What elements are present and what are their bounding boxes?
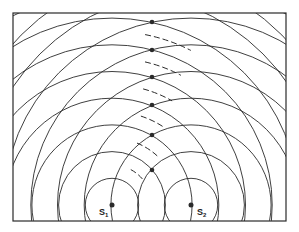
nodal-line-4 xyxy=(143,89,172,101)
source-label-s2: S2 xyxy=(197,207,207,218)
wavefront-s2-9 xyxy=(0,0,299,231)
wavefront-s1-6 xyxy=(0,45,272,231)
antinode-dot-6 xyxy=(150,168,155,173)
wavefront-s1-4 xyxy=(5,98,219,231)
nodal-line-1 xyxy=(131,170,143,180)
source-dot-s1 xyxy=(110,203,115,208)
antinode-points xyxy=(150,20,155,173)
antinode-dot-4 xyxy=(150,103,155,108)
nodal-line-2 xyxy=(137,143,158,157)
source-dot-s2 xyxy=(189,203,194,208)
wavefront-s2-8 xyxy=(0,0,299,231)
wavefront-circles xyxy=(0,0,299,231)
nodal-line-5 xyxy=(145,62,181,75)
wavefront-s1-10 xyxy=(0,0,299,231)
antinode-dot-2 xyxy=(150,48,155,53)
wavefront-s2-6 xyxy=(31,45,299,231)
wavefront-s1-8 xyxy=(0,0,299,231)
sources: S1S2 xyxy=(99,203,207,219)
wavefront-s2-4 xyxy=(84,98,298,231)
antinode-dot-3 xyxy=(150,75,155,80)
wavefront-s1-9 xyxy=(0,0,299,231)
nodal-lines xyxy=(131,35,191,180)
source-label-s1: S1 xyxy=(99,207,109,218)
nodal-line-3 xyxy=(141,116,164,127)
interference-diagram: S1S2 xyxy=(0,0,299,231)
antinode-dot-1 xyxy=(150,20,155,25)
antinode-dot-5 xyxy=(150,133,155,138)
wavefront-s2-10 xyxy=(0,0,299,231)
wavefront-s1-5 xyxy=(0,72,246,232)
